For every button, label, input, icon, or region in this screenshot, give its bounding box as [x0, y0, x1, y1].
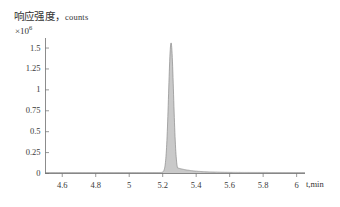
y-tick-label-1.5: 1.5 — [7, 43, 41, 53]
x-axis-tick-marks — [62, 174, 296, 178]
x-tick-label-5.8: 5.8 — [251, 180, 275, 190]
x-tick-label-5: 5 — [117, 180, 141, 190]
y-tick-label-0.75: 0.75 — [7, 105, 41, 115]
y-tick-label-0.25: 0.25 — [7, 147, 41, 157]
peak-area-fill — [46, 43, 306, 174]
x-tick-label-5.4: 5.4 — [184, 180, 208, 190]
x-tick-label-4.8: 4.8 — [84, 180, 108, 190]
y-tick-label-1.25: 1.25 — [7, 63, 41, 73]
y-tick-label-0.5: 0.5 — [7, 126, 41, 136]
x-tick-label-5.6: 5.6 — [218, 180, 242, 190]
y-tick-label-0: 0 — [7, 168, 41, 178]
y-tick-label-1: 1 — [7, 84, 41, 94]
y-axis-tick-marks — [46, 48, 50, 173]
chromatogram-figure: 响应强度，counts ×106 t,min 00.250.50.7511.25… — [0, 0, 340, 207]
x-tick-label-5.2: 5.2 — [151, 180, 175, 190]
x-tick-label-4.6: 4.6 — [50, 180, 74, 190]
chart-canvas — [0, 0, 340, 207]
x-tick-label-6: 6 — [285, 180, 309, 190]
